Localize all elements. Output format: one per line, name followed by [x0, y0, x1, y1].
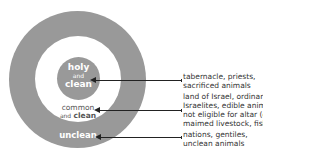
description-line: not eligible for altar (deer,: [183, 110, 263, 119]
arrow-holy: [94, 80, 182, 81]
description-line: land of Israel, ordinary: [183, 92, 263, 101]
tick-mark: [181, 136, 182, 139]
description-unclean: nations, gentiles, unclean animals: [183, 130, 248, 148]
description-line: Israelites, edible animals: [183, 101, 263, 110]
tick-mark: [181, 109, 182, 112]
description-common: land of Israel, ordinary Israelites, edi…: [183, 92, 263, 128]
arrowhead-icon: [90, 77, 96, 83]
arrowhead-icon: [94, 107, 100, 113]
label-clean: clean: [74, 111, 97, 120]
description-line: tabernacle, priests,: [183, 72, 255, 81]
arrow-unclean: [99, 137, 182, 138]
tick-mark: [181, 79, 182, 82]
description-line: maimed livestock, fish): [183, 119, 263, 128]
label-holy: holy: [57, 63, 100, 72]
description-line: sacrificed animals: [183, 81, 255, 90]
arrowhead-icon: [95, 134, 101, 140]
description-holy: tabernacle, priests, sacrificed animals: [183, 72, 255, 90]
arrow-common: [98, 110, 182, 111]
description-line: nations, gentiles,: [183, 130, 248, 139]
description-line: unclean animals: [183, 139, 248, 148]
label-and: and: [60, 112, 71, 119]
